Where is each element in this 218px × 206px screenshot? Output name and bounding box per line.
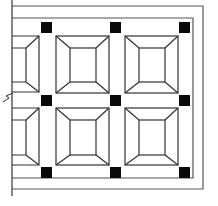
frame-row1-col3 — [125, 36, 178, 93]
corner-square — [110, 22, 121, 33]
corner-square — [41, 22, 52, 33]
corner-square — [179, 167, 190, 178]
frame-row1-col2 — [56, 36, 109, 93]
corner-square — [179, 95, 190, 106]
corner-square — [110, 95, 121, 106]
frame-row2-col3 — [125, 108, 178, 165]
frame-row2-col2 — [56, 108, 109, 165]
frame-partial-row2 — [12, 108, 39, 165]
corner-square — [41, 95, 52, 106]
corner-square — [179, 22, 190, 33]
corner-square — [110, 167, 121, 178]
tile-pattern-diagram — [0, 0, 218, 206]
corner-square — [41, 167, 52, 178]
frame-partial-row1 — [12, 36, 39, 92]
